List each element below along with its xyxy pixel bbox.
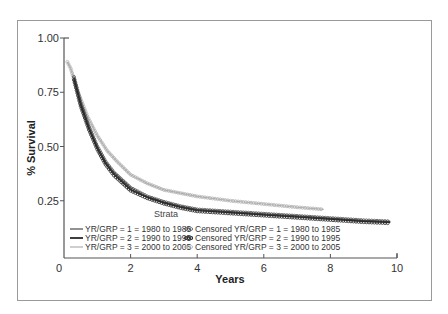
censor-markers-grp-2 — [72, 79, 389, 225]
legend-censor-label: Censored YR/GRP = 3 = 2000 to 2005 — [195, 242, 341, 252]
y-tick-label: 0.50 — [38, 141, 59, 153]
censor-markers-grp-3 — [66, 60, 323, 210]
survival-chart: 0.250.500.751.000246810 StrataYR/GRP = 1… — [0, 0, 448, 314]
y-axis-title: % Survival — [25, 120, 37, 176]
x-tick-label: 2 — [128, 262, 134, 274]
legend: StrataYR/GRP = 1 = 1980 to 1985YR/GRP = … — [70, 209, 341, 252]
y-tick-label: 0.25 — [38, 195, 59, 207]
x-tick-label: 6 — [261, 262, 267, 274]
survival-curve-grp-3 — [67, 62, 323, 210]
x-axis-title: Years — [215, 273, 244, 285]
y-tick-label: 0.75 — [38, 86, 59, 98]
legend-line-label: YR/GRP = 3 = 2000 to 2005 — [85, 242, 191, 252]
curves — [66, 60, 391, 224]
x-tick-label: 10 — [391, 262, 403, 274]
x-tick-label: 0 — [56, 262, 62, 274]
x-tick-label: 4 — [194, 262, 200, 274]
x-tick-label: 8 — [327, 262, 333, 274]
legend-title: Strata — [154, 209, 178, 219]
y-tick-label: 1.00 — [38, 32, 59, 44]
